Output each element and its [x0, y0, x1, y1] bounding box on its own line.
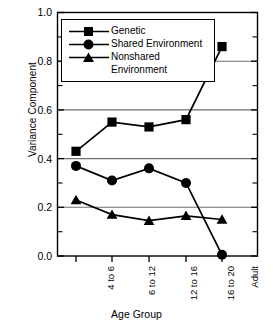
data-point-square: [144, 122, 153, 131]
data-point-square: [181, 115, 190, 124]
x-tick-label-12-to-16: 12 to 16: [188, 266, 199, 300]
y-tick-label-0.0: 0.0: [22, 251, 52, 261]
legend-entry-shared-environment: Shared Environment: [62, 37, 214, 50]
legend: Genetic Shared Environment: [61, 19, 215, 82]
x-ticks: [76, 256, 222, 262]
legend-marker-square-icon: [67, 24, 111, 37]
x-axis-title: Age Group: [0, 308, 273, 320]
legend-entry-nonshared-environment-line2: Environment: [62, 63, 214, 76]
legend-label-genetic: Genetic: [111, 25, 145, 37]
legend-entry-nonshared-environment: Nonshared: [62, 50, 214, 63]
data-point-circle: [181, 178, 191, 188]
legend-marker-triangle-icon: [67, 50, 111, 63]
variance-component-line-chart: Variance Component 1.0 0.8 0.6 0.4 0.2 0…: [0, 0, 273, 326]
legend-entry-genetic: Genetic: [62, 24, 214, 37]
legend-label-nonshared-environment-cont: Environment: [111, 64, 167, 76]
y-tick-label-0.2: 0.2: [22, 202, 52, 212]
x-tick-label-6-to-12: 6 to 12: [146, 266, 157, 295]
data-point-circle: [144, 163, 154, 173]
legend-label-shared-environment: Shared Environment: [111, 38, 202, 50]
x-tick-label-4-to-6: 4 to 6: [105, 266, 116, 290]
data-point-square: [71, 147, 80, 156]
x-tick-label-adult: Adult: [249, 266, 260, 288]
legend-marker-circle-icon: [67, 37, 111, 50]
y-tick-label-0.8: 0.8: [22, 56, 52, 66]
x-tick-label-16-to-20: 16 to 20: [225, 266, 236, 300]
data-point-circle: [71, 161, 81, 171]
data-point-circle: [107, 176, 117, 186]
y-tick-label-1.0: 1.0: [22, 7, 52, 17]
data-point-square: [107, 117, 116, 126]
y-tick-label-0.6: 0.6: [22, 105, 52, 115]
y-tick-label-0.4: 0.4: [22, 154, 52, 164]
legend-label-nonshared-environment: Nonshared: [111, 51, 160, 63]
data-point-square: [217, 42, 226, 51]
data-point-circle: [217, 250, 227, 260]
